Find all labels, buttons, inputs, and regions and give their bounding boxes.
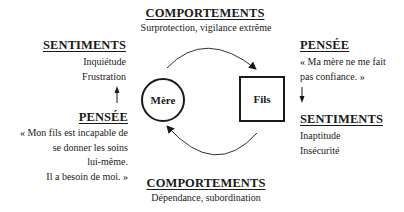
mother-feeling-1: Inquiétude bbox=[43, 55, 126, 70]
son-thought: PENSÉE « Ma mère ne me fait pas confianc… bbox=[300, 38, 386, 84]
mother-feelings: SENTIMENTS Inquiétude Frustration bbox=[43, 38, 126, 84]
son-thought-heading: PENSÉE bbox=[300, 38, 386, 53]
mother-feeling-2: Frustration bbox=[43, 70, 126, 85]
bottom-behavior-heading: COMPORTEMENTS bbox=[147, 176, 266, 191]
son-feeling-2: Insécurité bbox=[300, 144, 383, 159]
mother-thought-heading: PENSÉE bbox=[20, 110, 128, 125]
mother-thought-line-3: lui-même. bbox=[20, 155, 128, 170]
son-feeling-1: Inaptitude bbox=[300, 129, 383, 144]
top-behavior-heading: COMPORTEMENTS bbox=[146, 6, 265, 21]
mother-thought: PENSÉE « Mon fils est incapable de se do… bbox=[20, 110, 128, 184]
arrow-mother-to-son-icon bbox=[167, 48, 256, 69]
son-thought-line-1: « Ma mère ne me fait bbox=[300, 55, 386, 70]
son-feelings-heading: SENTIMENTS bbox=[300, 112, 383, 127]
top-behavior-text: Surprotection, vigilance extrême bbox=[141, 21, 272, 36]
mother-thought-line-1: « Mon fils est incapable de bbox=[20, 126, 128, 141]
mother-thought-line-2: se donner les soins bbox=[20, 141, 128, 156]
mother-thought-line-4: Il a besoin de moi. » bbox=[20, 170, 128, 185]
son-feelings: SENTIMENTS Inaptitude Insécurité bbox=[300, 112, 383, 158]
son-label: Fils bbox=[253, 93, 270, 105]
mother-label: Mère bbox=[151, 94, 176, 106]
arrow-son-to-mother-icon bbox=[167, 126, 257, 155]
bottom-behavior-text: Dépendance, subordination bbox=[151, 191, 260, 206]
son-thought-line-2: pas confiance. » bbox=[300, 70, 386, 85]
mother-feelings-heading: SENTIMENTS bbox=[43, 38, 126, 53]
